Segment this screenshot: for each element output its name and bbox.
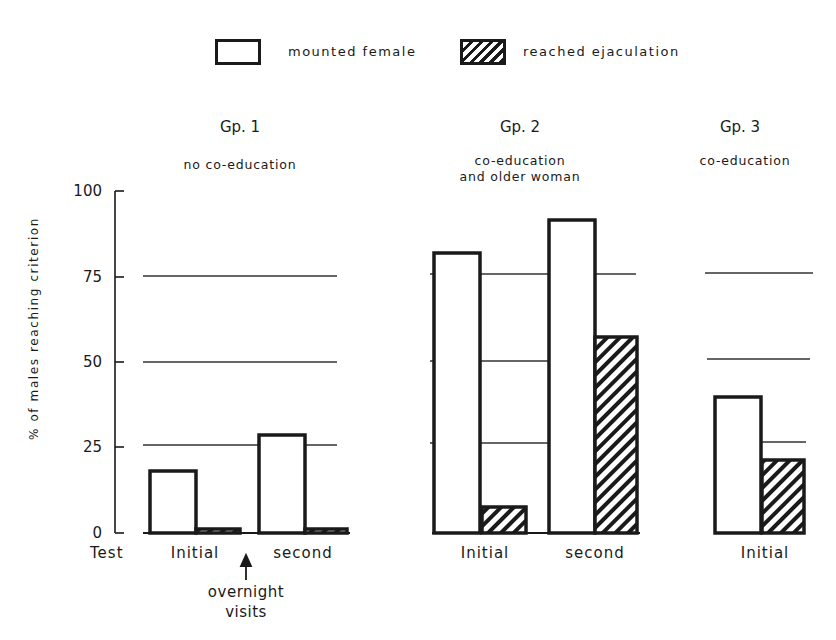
- group-2-test-initial: Initial: [440, 544, 530, 562]
- overnight-visits-annotation-line2: visits: [196, 602, 296, 622]
- group-2-bars: [432, 220, 640, 533]
- x-test-label: Test: [90, 544, 140, 562]
- group-3-bars: [715, 397, 804, 533]
- y-axis: [115, 191, 124, 533]
- group-1-test-second: second: [258, 544, 348, 562]
- group-1-test-initial: Initial: [155, 544, 235, 562]
- overnight-visits-annotation-line1: overnight: [196, 582, 296, 602]
- group-3-test-initial: Initial: [720, 544, 810, 562]
- group-1-bars: [143, 435, 350, 533]
- overnight-visits-arrow: [241, 555, 251, 580]
- group-2-test-second: second: [550, 544, 640, 562]
